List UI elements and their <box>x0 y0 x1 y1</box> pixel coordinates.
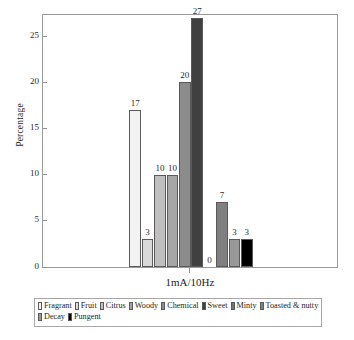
bar[interactable] <box>142 239 154 267</box>
legend-swatch-icon <box>260 302 264 310</box>
legend-label: Toasted & nutty <box>266 302 319 310</box>
bar[interactable] <box>179 82 191 267</box>
legend-label: Minty <box>237 302 257 310</box>
legend-label: Pungent <box>74 313 101 321</box>
y-axis-tick-label: 0 <box>35 261 40 271</box>
legend-label: Fragrant <box>44 302 72 310</box>
legend-swatch-icon <box>38 313 42 321</box>
y-axis-tick-label: 25 <box>30 30 39 40</box>
legend-item[interactable]: Citrus <box>100 302 126 310</box>
legend-item[interactable]: Fragrant <box>38 302 72 310</box>
legend-label: Chemical <box>167 302 198 310</box>
legend-row: DecayPungent <box>38 312 318 323</box>
legend-swatch-icon <box>129 302 133 310</box>
bar-group[interactable]: 0 <box>204 13 216 267</box>
y-axis-tick-label: 10 <box>30 168 39 178</box>
bar[interactable] <box>229 239 241 267</box>
bar-value-label: 17 <box>131 99 140 108</box>
legend-label: Citrus <box>106 302 126 310</box>
bar-group[interactable]: 10 <box>167 13 179 267</box>
bar-value-label: 20 <box>180 71 189 80</box>
legend-swatch-icon <box>100 302 104 310</box>
legend-item[interactable]: Decay <box>38 313 65 321</box>
bar-group[interactable]: 17 <box>129 13 141 267</box>
bar-group[interactable]: 3 <box>241 13 253 267</box>
bar[interactable] <box>154 175 166 267</box>
legend-swatch-icon <box>202 302 206 310</box>
bar-group[interactable]: 10 <box>154 13 166 267</box>
bar-value-label: 10 <box>168 164 177 173</box>
legend-swatch-icon <box>231 302 235 310</box>
legend-swatch-icon <box>75 302 79 310</box>
bar-group[interactable]: 3 <box>229 13 241 267</box>
legend-label: Woody <box>135 302 158 310</box>
legend-label: Sweet <box>208 302 228 310</box>
bar-chart-figure: Percentage 0510152025 173101020270733 1m… <box>0 0 354 340</box>
bar-value-label: 3 <box>145 228 150 237</box>
legend-item[interactable]: Sweet <box>202 302 228 310</box>
bar-group[interactable]: 3 <box>142 13 154 267</box>
y-axis-tick-label: 15 <box>30 122 39 132</box>
bar-group[interactable]: 20 <box>179 13 191 267</box>
legend-item[interactable]: Chemical <box>161 302 198 310</box>
bar[interactable] <box>216 202 228 267</box>
legend-item[interactable]: Woody <box>129 302 158 310</box>
bar[interactable] <box>191 18 203 267</box>
bar-value-label: 3 <box>245 228 250 237</box>
legend-item[interactable]: Toasted & nutty <box>260 302 319 310</box>
legend-row: FragrantFruitCitrusWoodyChemicalSweetMin… <box>38 301 318 312</box>
bar-value-label: 0 <box>207 256 212 265</box>
bar-group[interactable]: 27 <box>191 13 203 267</box>
legend-swatch-icon <box>38 302 42 310</box>
y-axis-tick-label: 20 <box>30 76 39 86</box>
legend-item[interactable]: Fruit <box>75 302 97 310</box>
legend-label: Fruit <box>81 302 97 310</box>
y-axis-title: Percentage <box>15 81 25 169</box>
legend-swatch-icon <box>161 302 165 310</box>
x-axis-tick-mark <box>189 268 190 273</box>
bar[interactable] <box>167 175 179 267</box>
bar[interactable] <box>129 110 141 267</box>
y-axis-tick-label: 5 <box>35 214 40 224</box>
legend-item[interactable]: Pungent <box>68 313 101 321</box>
legend-label: Decay <box>44 313 65 321</box>
legend-item[interactable]: Minty <box>231 302 257 310</box>
bar-value-label: 10 <box>155 164 164 173</box>
bar-value-label: 7 <box>220 191 225 200</box>
bar-value-label: 27 <box>193 7 202 16</box>
plot-area: 0510152025 173101020270733 <box>42 14 338 268</box>
bar[interactable] <box>241 239 253 267</box>
legend-swatch-icon <box>68 313 72 321</box>
bar-value-label: 3 <box>232 228 237 237</box>
bar-group[interactable]: 7 <box>216 13 228 267</box>
chart-legend: FragrantFruitCitrusWoodyChemicalSweetMin… <box>34 298 322 327</box>
bar-series: 173101020270733 <box>43 15 337 267</box>
x-axis-title: 1mA/10Hz <box>42 276 338 288</box>
